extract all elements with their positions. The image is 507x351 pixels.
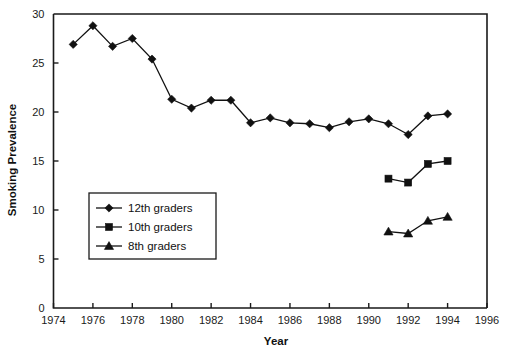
data-point-0-1987 <box>306 120 314 128</box>
x-tick-label-1978: 1978 <box>120 314 144 326</box>
legend-marker-square <box>106 224 113 231</box>
x-tick-label-1986: 1986 <box>278 314 302 326</box>
y-tick-label-10: 10 <box>32 204 44 216</box>
series-line-2 <box>388 217 447 234</box>
data-point-0-1985 <box>266 114 274 122</box>
x-axis-title: Year <box>264 335 289 347</box>
chart-container: 1974197619781980198219841986198819901992… <box>0 0 507 351</box>
series-8th-graders <box>384 212 452 236</box>
data-point-0-1988 <box>325 124 333 132</box>
series-10th-graders <box>385 158 451 187</box>
x-tick-label-1974: 1974 <box>41 314 65 326</box>
legend-label-1: 10th graders <box>128 221 193 233</box>
y-axis-tick-labels: 051015202530 <box>32 8 44 314</box>
y-tick-label-15: 15 <box>32 155 44 167</box>
data-point-0-1986 <box>286 119 294 127</box>
x-tick-label-1980: 1980 <box>159 314 183 326</box>
x-tick-label-1976: 1976 <box>81 314 105 326</box>
legend-label-0: 12th graders <box>128 202 193 214</box>
axes <box>54 14 488 308</box>
x-axis-tick-labels: 1974197619781980198219841986198819901992… <box>41 314 499 326</box>
data-point-0-1981 <box>187 104 195 112</box>
axis-top-right <box>54 14 488 308</box>
data-point-0-1994 <box>443 110 451 118</box>
x-tick-label-1982: 1982 <box>199 314 223 326</box>
data-point-0-1989 <box>345 118 353 126</box>
data-point-0-1990 <box>365 115 373 123</box>
y-tick-label-30: 30 <box>32 8 44 20</box>
y-tick-label-5: 5 <box>38 253 44 265</box>
data-point-1-1993 <box>424 160 431 167</box>
y-tick-label-20: 20 <box>32 106 44 118</box>
y-axis-title: Smoking Prevalence <box>6 104 18 217</box>
data-point-0-1991 <box>384 120 392 128</box>
data-point-1-1991 <box>385 175 392 182</box>
chart-legend: 12th graders10th graders8th graders <box>89 193 216 259</box>
data-point-0-1982 <box>207 96 215 104</box>
series-12th-graders <box>69 22 452 139</box>
x-tick-label-1984: 1984 <box>238 314 262 326</box>
series-line-1 <box>388 161 447 183</box>
x-tick-label-1988: 1988 <box>317 314 341 326</box>
smoking-prevalence-line-chart: 1974197619781980198219841986198819901992… <box>0 0 507 351</box>
series-line-0 <box>73 26 447 135</box>
x-tick-label-1994: 1994 <box>435 314 459 326</box>
data-point-1-1992 <box>405 179 412 186</box>
tick-marks <box>54 63 488 308</box>
y-tick-label-25: 25 <box>32 57 44 69</box>
data-point-0-1980 <box>168 95 176 103</box>
data-point-1-1994 <box>444 158 451 165</box>
axis-left-bottom <box>54 14 488 308</box>
data-point-2-1991 <box>384 227 393 235</box>
x-tick-label-1990: 1990 <box>357 314 381 326</box>
y-tick-label-0: 0 <box>38 302 44 314</box>
x-tick-label-1996: 1996 <box>475 314 499 326</box>
x-tick-label-1992: 1992 <box>396 314 420 326</box>
data-point-2-1994 <box>443 212 452 220</box>
legend-label-2: 8th graders <box>128 240 186 252</box>
